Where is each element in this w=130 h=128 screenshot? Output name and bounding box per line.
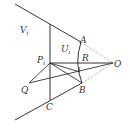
label-R: R xyxy=(81,53,89,63)
label-B: B xyxy=(78,85,86,95)
label-O: O xyxy=(114,59,122,69)
label-U: Ui xyxy=(61,44,71,55)
label-Q: Q xyxy=(21,85,29,95)
label-V: Vi xyxy=(20,25,29,36)
dashed-line-B-O xyxy=(82,63,113,83)
geometry-diagram: Vi Ui Pi A R O Q B C xyxy=(0,0,130,128)
line-P-B xyxy=(50,63,82,83)
line-P-Q xyxy=(29,63,50,83)
line-Q-O xyxy=(29,63,113,83)
label-A: A xyxy=(79,35,87,45)
line-P-arc xyxy=(50,63,80,72)
upper-boundary-line xyxy=(15,4,81,42)
label-P: Pi xyxy=(36,55,45,66)
label-C: C xyxy=(46,102,53,112)
